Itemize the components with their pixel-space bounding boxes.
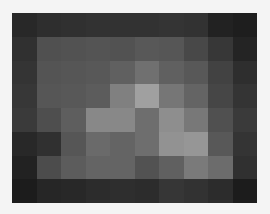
grid-cell — [233, 179, 258, 203]
grid-cell — [184, 13, 209, 37]
grid-cell — [61, 13, 86, 37]
grid-cell — [208, 61, 233, 85]
grid-cell — [37, 179, 62, 203]
grid-cell — [37, 84, 62, 108]
grid-cell — [12, 61, 37, 85]
grid-cell — [135, 132, 160, 156]
grid-cell — [159, 108, 184, 132]
grid-cell — [86, 132, 111, 156]
grid-cell — [86, 61, 111, 85]
grid-cell — [12, 13, 37, 37]
grid-cell — [12, 108, 37, 132]
grid-cell — [208, 108, 233, 132]
grid-cell — [61, 132, 86, 156]
grid-cell — [86, 156, 111, 180]
grid-cell — [86, 37, 111, 61]
grid-cell — [135, 156, 160, 180]
grid-cell — [12, 156, 37, 180]
grid-cell — [12, 132, 37, 156]
grid-cell — [135, 61, 160, 85]
grid-cell — [61, 108, 86, 132]
grid-cell — [37, 132, 62, 156]
grid-cell — [110, 37, 135, 61]
grid-cell — [184, 156, 209, 180]
grid-cell — [208, 13, 233, 37]
grid-cell — [208, 84, 233, 108]
grid-cell — [110, 61, 135, 85]
grid-cell — [61, 179, 86, 203]
grid-cell — [184, 61, 209, 85]
grid-cell — [135, 37, 160, 61]
grid-cell — [135, 13, 160, 37]
grid-cell — [86, 13, 111, 37]
grid-cell — [86, 84, 111, 108]
grid-cell — [61, 156, 86, 180]
grid-cell — [12, 179, 37, 203]
grid-cell — [61, 37, 86, 61]
grid-cell — [37, 13, 62, 37]
grid-cell — [233, 13, 258, 37]
grid-cell — [110, 108, 135, 132]
grid-cell — [184, 179, 209, 203]
grid-cell — [184, 84, 209, 108]
grid-cell — [37, 61, 62, 85]
grid-cell — [233, 84, 258, 108]
grid-cell — [37, 156, 62, 180]
grid-cell — [86, 108, 111, 132]
grid-cell — [110, 84, 135, 108]
grid-cell — [61, 84, 86, 108]
grid-cell — [12, 84, 37, 108]
grid-cell — [37, 108, 62, 132]
grid-cell — [159, 132, 184, 156]
grid-cell — [159, 179, 184, 203]
grid-cell — [233, 61, 258, 85]
grid-cell — [159, 13, 184, 37]
grid-cell — [12, 37, 37, 61]
grid-cell — [233, 156, 258, 180]
grid-cell — [208, 132, 233, 156]
grid-cell — [110, 179, 135, 203]
grid-cell — [135, 84, 160, 108]
grid-cell — [184, 132, 209, 156]
grid-cell — [110, 13, 135, 37]
grid-cell — [208, 156, 233, 180]
grid-cell — [135, 179, 160, 203]
grid-cell — [208, 179, 233, 203]
grid-cell — [86, 179, 111, 203]
grid-cell — [110, 156, 135, 180]
grid-cell — [110, 132, 135, 156]
grid-cell — [159, 61, 184, 85]
grid-cell — [61, 61, 86, 85]
grid-cell — [233, 108, 258, 132]
pixel-grid — [12, 13, 257, 203]
grid-cell — [37, 37, 62, 61]
grid-cell — [159, 84, 184, 108]
grid-cell — [184, 108, 209, 132]
grid-cell — [233, 132, 258, 156]
grid-cell — [233, 37, 258, 61]
grid-cell — [208, 37, 233, 61]
grid-cell — [159, 156, 184, 180]
grid-cell — [159, 37, 184, 61]
grid-cell — [135, 108, 160, 132]
grid-cell — [184, 37, 209, 61]
